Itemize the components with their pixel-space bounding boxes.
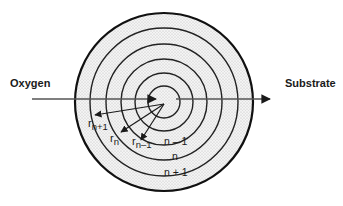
radius-label-subscript: n–1 (136, 139, 152, 150)
outer-sphere (75, 13, 253, 191)
shell-label-n: n (172, 150, 178, 162)
radius-label-subscript: n (114, 136, 119, 147)
shell-label-n-plus-1: n + 1 (164, 166, 188, 178)
shell-label-n-minus-1: n – 1 (164, 135, 188, 147)
shell-diagram: Oxygen Substrate rn+1 rn rn–1 n – 1 n n … (0, 0, 343, 206)
substrate-label: Substrate (285, 77, 336, 89)
radius-label-subscript: n+1 (92, 121, 108, 132)
oxygen-label: Oxygen (10, 77, 51, 89)
